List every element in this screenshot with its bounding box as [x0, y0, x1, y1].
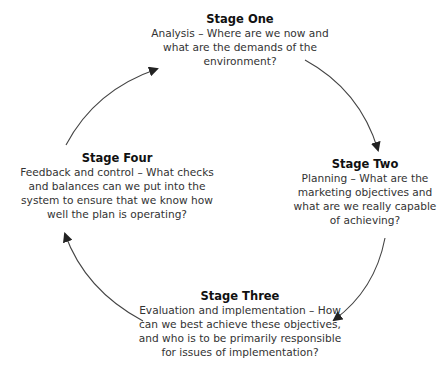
stage-two-title: Stage Two — [290, 157, 440, 171]
stage-one-title: Stage One — [150, 12, 330, 26]
stage-four-title: Stage Four — [12, 151, 222, 165]
stage-one-description: Analysis – Where are we now and what are… — [150, 26, 330, 68]
stage-three-title: Stage Three — [130, 289, 350, 303]
stage-four: Stage Four Feedback and control – What c… — [12, 151, 222, 221]
arrow-stage-four-to-one — [66, 69, 157, 145]
stage-four-description: Feedback and control – What checks and b… — [12, 165, 222, 221]
stage-two-description: Planning – What are the marketing object… — [290, 171, 440, 227]
stage-three: Stage Three Evaluation and implementatio… — [130, 289, 350, 359]
arrow-stage-one-to-two — [305, 60, 378, 150]
stage-three-description: Evaluation and implementation – How can … — [130, 303, 350, 359]
stage-one: Stage One Analysis – Where are we now an… — [150, 12, 330, 68]
stage-two: Stage Two Planning – What are the market… — [290, 157, 440, 227]
